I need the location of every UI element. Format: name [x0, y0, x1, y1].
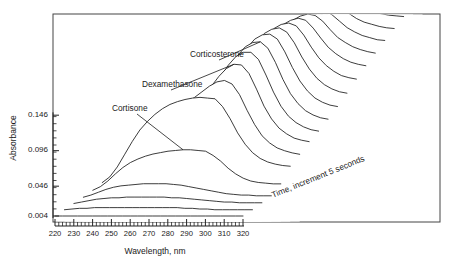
y-tick-label: 0.146 — [14, 110, 48, 119]
y-tick-label: 0.046 — [14, 181, 48, 190]
y-tick-label: 0.096 — [14, 145, 48, 154]
annotation-cortisone: Cortisone — [112, 103, 148, 113]
x-axis-title: Wavelength, nm — [70, 246, 240, 256]
y-axis-title: Absorbance — [8, 93, 18, 183]
annotation-dexamethasone: Dexamethasone — [142, 79, 202, 89]
x-tick-label: 320 — [232, 229, 254, 238]
annotation-corticosterone: Corticosterone — [190, 49, 244, 59]
y-tick-label: 0.004 — [14, 211, 48, 220]
